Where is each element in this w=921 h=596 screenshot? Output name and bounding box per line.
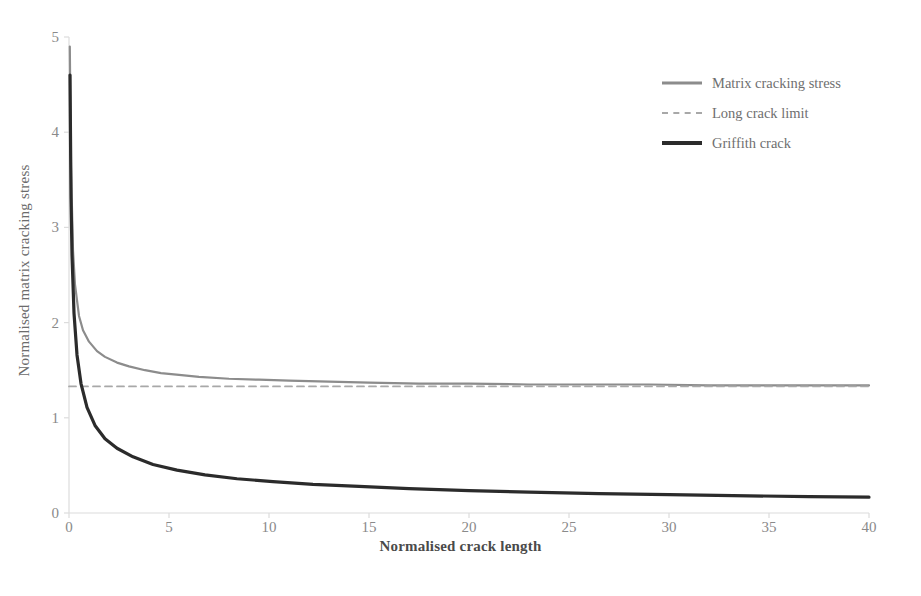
legend-swatch-dashed-gray-icon bbox=[662, 107, 702, 119]
x-tick-label: 5 bbox=[165, 519, 173, 536]
legend-item[interactable]: Griffith crack bbox=[662, 128, 912, 158]
chart-figure: 012345 0510152025303540 Normalised crack… bbox=[0, 0, 921, 596]
x-tick-label: 0 bbox=[65, 519, 73, 536]
y-tick-label: 5 bbox=[33, 29, 59, 46]
legend-swatch-solid-gray-icon bbox=[662, 77, 702, 89]
x-tick-label: 25 bbox=[562, 519, 577, 536]
x-axis-title: Normalised crack length bbox=[0, 538, 921, 555]
y-axis-title: Normalised matrix cracking stress bbox=[16, 51, 33, 491]
y-tick-label: 4 bbox=[33, 124, 59, 141]
legend-item-label: Matrix cracking stress bbox=[712, 75, 841, 92]
legend-item[interactable]: Matrix cracking stress bbox=[662, 68, 912, 98]
x-tick-label: 15 bbox=[362, 519, 377, 536]
x-tick-label: 30 bbox=[662, 519, 677, 536]
x-tick-label: 35 bbox=[762, 519, 777, 536]
legend-item-label: Long crack limit bbox=[712, 105, 809, 122]
y-tick-label: 3 bbox=[33, 219, 59, 236]
chart-legend: Matrix cracking stressLong crack limitGr… bbox=[662, 68, 912, 158]
x-tick-label: 20 bbox=[462, 519, 477, 536]
y-tick-label: 1 bbox=[33, 409, 59, 426]
legend-item[interactable]: Long crack limit bbox=[662, 98, 912, 128]
x-tick-label: 10 bbox=[262, 519, 277, 536]
legend-item-label: Griffith crack bbox=[712, 135, 791, 152]
legend-swatch-solid-black-icon bbox=[662, 137, 702, 149]
y-tick-label: 2 bbox=[33, 314, 59, 331]
x-tick-label: 40 bbox=[862, 519, 877, 536]
y-tick-label: 0 bbox=[33, 505, 59, 522]
